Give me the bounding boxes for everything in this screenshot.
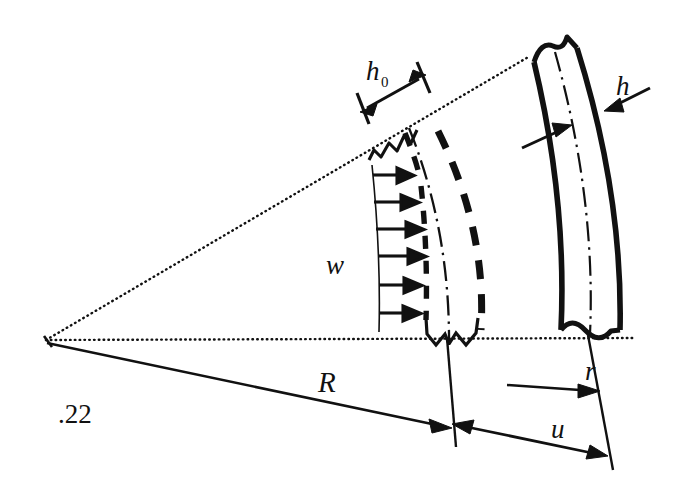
R-arrowhead [429, 419, 452, 433]
velocity-arrow-5 [379, 278, 422, 293]
sector-construction-lines [46, 56, 636, 340]
r-dimension [507, 384, 600, 398]
outer-band [534, 37, 620, 338]
bottom-break-symbols [426, 318, 478, 345]
theoretical-boundary-dashed-arc [438, 131, 482, 330]
label-figure-id: .22 [58, 399, 92, 429]
inner-boundary-arc [372, 165, 379, 332]
lower-radius-dotted [46, 338, 636, 340]
break-zigzag-left [426, 318, 449, 345]
R-dimension [44, 336, 452, 433]
upper-radius-dotted [46, 56, 530, 340]
velocity-arrow-2 [374, 195, 419, 210]
label-w: w [326, 250, 344, 280]
figure-container: h 0 h w R r u .22 [0, 0, 683, 495]
velocity-arrow-6 [379, 306, 421, 321]
u-dimension-line [467, 427, 592, 453]
break-zigzag-right [449, 318, 478, 345]
u-dimension [452, 420, 608, 459]
u-arrowhead-right [586, 445, 608, 459]
velocity-arrow-1 [373, 168, 414, 183]
velocity-arrow-4 [378, 249, 426, 264]
r-dimension-line [507, 385, 580, 390]
label-h: h [616, 71, 630, 101]
h-leader-left [522, 131, 559, 148]
label-r: r [585, 356, 596, 386]
schematic-drawing: h 0 h w R r u .22 [0, 0, 683, 495]
u-extension-left [447, 338, 456, 447]
band-inner-face [534, 62, 562, 330]
velocity-arrow-3 [376, 222, 424, 237]
label-u: u [551, 414, 565, 444]
label-R: R [317, 366, 336, 398]
velocity-profile-arrows [373, 168, 426, 321]
h-arrowhead-left [552, 123, 572, 137]
label-h0: h [366, 56, 380, 86]
band-top-break [534, 37, 577, 62]
label-h0-subscript: 0 [381, 74, 389, 90]
R-dimension-line [47, 343, 432, 424]
